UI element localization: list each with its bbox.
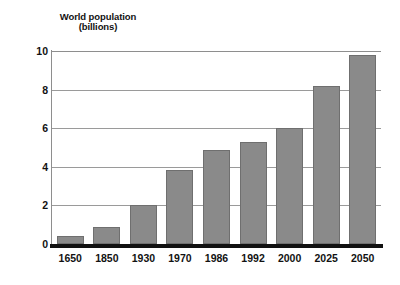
y-tick-label-0: 0 (8, 238, 48, 250)
bar-2050 (349, 55, 376, 244)
y-tick-label-4: 4 (8, 161, 48, 173)
bar-1986 (203, 150, 230, 244)
x-tick-label-1650: 1650 (52, 252, 89, 264)
y-tick-label-8: 8 (8, 84, 48, 96)
bar-1650 (57, 236, 84, 244)
chart-axis-title: World population (billions) (18, 12, 178, 32)
plot-area (52, 51, 381, 244)
x-tick-label-1992: 1992 (235, 252, 272, 264)
x-tick-label-1986: 1986 (198, 252, 235, 264)
bar-2025 (313, 86, 340, 244)
x-tick-label-1970: 1970 (162, 252, 199, 264)
x-axis-tick-labels: 165018501930197019861992200020252050 (52, 252, 381, 274)
x-tick-label-2050: 2050 (344, 252, 381, 264)
x-axis-line (50, 244, 383, 248)
bar-2000 (276, 128, 303, 244)
bar-1850 (93, 227, 120, 244)
x-tick-label-1850: 1850 (89, 252, 126, 264)
y-tick-label-6: 6 (8, 122, 48, 134)
bar-series (52, 51, 381, 244)
x-tick-label-2000: 2000 (271, 252, 308, 264)
x-tick-label-1930: 1930 (125, 252, 162, 264)
x-tick-label-2025: 2025 (308, 252, 345, 264)
bar-1970 (166, 170, 193, 244)
bar-1992 (240, 142, 267, 244)
y-tick-label-2: 2 (8, 199, 48, 211)
chart-axis-title-line-2: (billions) (18, 22, 178, 32)
y-tick-label-10: 10 (8, 45, 48, 57)
bar-1930 (130, 205, 157, 244)
world-population-bar-chart: World population (billions) 0246810 1650… (0, 0, 400, 285)
